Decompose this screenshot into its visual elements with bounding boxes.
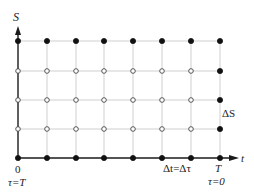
grid-node-filled-icon [130, 155, 135, 160]
grid-node-open-icon [16, 69, 21, 74]
grid-node-open-icon [74, 69, 79, 74]
grid-node-open-icon [45, 127, 50, 132]
grid-node-filled-icon [44, 38, 49, 43]
grid-node-filled-icon [188, 38, 193, 43]
grid-node-filled-icon [44, 155, 49, 160]
grid-node-open-icon [189, 98, 194, 103]
grid-node-filled-icon [130, 38, 135, 43]
finite-difference-grid-diagram: S t 0 τ=T Δt=Δτ T τ=0 ΔS [0, 0, 254, 196]
grid-node-filled-icon [217, 126, 222, 131]
grid-node-open-icon [160, 69, 165, 74]
grid-node-filled-icon [159, 155, 164, 160]
s-axis-arrow-icon [15, 26, 21, 35]
grid-node-open-icon [45, 69, 50, 74]
grid-node-filled-icon [73, 155, 78, 160]
grid-node-open-icon [189, 127, 194, 132]
grid-node-open-icon [102, 69, 107, 74]
grid-node-filled-icon [101, 38, 106, 43]
grid-node-open-icon [160, 98, 165, 103]
grid-node-open-icon [74, 127, 79, 132]
grid-node-open-icon [74, 98, 79, 103]
grid-node-filled-icon [73, 38, 78, 43]
grid-node-filled-icon [217, 68, 222, 73]
grid-node-open-icon [16, 98, 21, 103]
grid-node-open-icon [131, 69, 136, 74]
s-axis-label: S [13, 11, 19, 23]
end-tau-label: τ=0 [208, 176, 225, 187]
origin-label: 0 [15, 164, 21, 175]
end-t-label: T [215, 163, 221, 174]
t-axis-arrow-icon [229, 155, 239, 161]
grid-node-filled-icon [101, 155, 106, 160]
grid-node-open-icon [189, 69, 194, 74]
grid-node-open-icon [131, 98, 136, 103]
grid-node-filled-icon [15, 38, 20, 43]
ds-label: ΔS [222, 108, 235, 119]
grid-node-open-icon [16, 127, 21, 132]
grid-node-open-icon [102, 98, 107, 103]
grid-node-open-icon [102, 127, 107, 132]
grid-node-open-icon [45, 98, 50, 103]
t-axis-label: t [241, 153, 244, 164]
grid-node-filled-icon [217, 97, 222, 102]
grid-node-filled-icon [188, 155, 193, 160]
grid-node-filled-icon [159, 38, 164, 43]
grid-node-filled-icon [217, 38, 222, 43]
grid-node-filled-icon [15, 155, 20, 160]
grid-node-filled-icon [217, 155, 222, 160]
axes [15, 26, 239, 161]
dt-label: Δt=Δτ [163, 163, 191, 174]
grid-node-open-icon [160, 127, 165, 132]
origin-tau-label: τ=T [8, 177, 25, 188]
grid-node-open-icon [131, 127, 136, 132]
